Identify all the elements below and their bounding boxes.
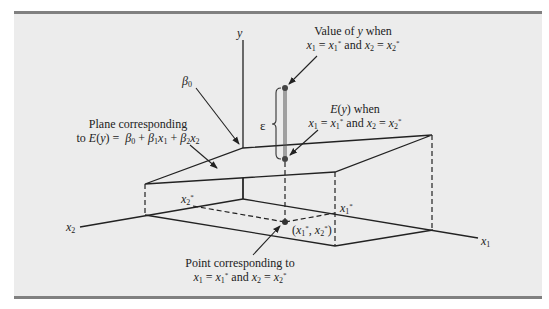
point-dot [282, 219, 288, 225]
floor-front-edge [145, 215, 433, 246]
x2-axis-label: x2 [66, 220, 75, 234]
observed-y-dot [282, 85, 288, 91]
expected-y-dot [282, 156, 288, 162]
value-of-y-label: Value of y when x1 = x1* and x2 = x2* [298, 24, 408, 52]
dashed-x1star [285, 213, 335, 222]
dashed-x2star [193, 206, 285, 222]
x2-star-label: x2* [181, 192, 194, 206]
y-axis-label: y [237, 26, 242, 40]
expected-y-label: E(y) when x1 = x1* and x2 = x2* [295, 102, 415, 130]
plane-label: Plane corresponding to E(y) = β0 + β1x1 … [68, 117, 208, 145]
point-label: Point corresponding to x1 = x1* and x2 =… [175, 256, 305, 284]
x1-star-label: x1* [340, 201, 353, 215]
x1-axis-label: x1 [481, 234, 490, 248]
beta0-label: β0 [182, 74, 192, 88]
x1-axis [243, 199, 478, 238]
x2-axis [80, 199, 243, 227]
point-coords-label: (x1*, x2*) [292, 223, 332, 237]
epsilon-label: ε [260, 119, 265, 133]
